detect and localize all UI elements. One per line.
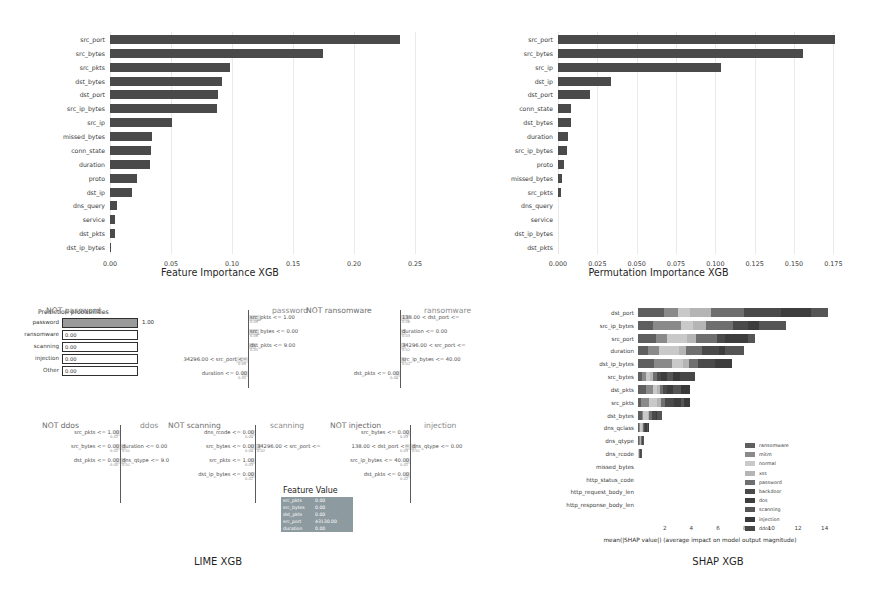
shap-class-segment <box>673 385 681 394</box>
shap-x-tick-label: 12 <box>794 525 801 531</box>
shap-feature-label: src_ip_bytes <box>600 322 634 328</box>
feature-value-table: src_pkts0.00src_bytes0.00dst_pkts0.00src… <box>281 497 353 532</box>
lime-weight-value: 0.02 <box>402 362 410 366</box>
shap-class-segment <box>684 398 690 407</box>
shap-bar-row: src_ip_bytes <box>638 321 838 331</box>
shap-class-segment <box>733 321 748 330</box>
shap-class-segment <box>717 334 725 343</box>
bar-category-label: src_ip <box>440 63 553 70</box>
shap-bar-row: src_bytes <box>638 372 838 382</box>
bar-category-label: src_pkts <box>0 63 105 70</box>
bar-category-label: dns_query <box>0 202 105 209</box>
shap-class-segment <box>759 321 786 330</box>
bar-category-label: src_bytes <box>440 49 553 56</box>
lime-positive-class-label: injection <box>424 421 456 430</box>
bar-category-label: src_bytes <box>0 49 105 56</box>
shap-feature-label: src_bytes <box>608 374 634 380</box>
gridline <box>293 32 294 254</box>
bar-category-label: missed_bytes <box>0 133 105 140</box>
shap-class-segment <box>641 449 642 458</box>
bar <box>110 215 115 224</box>
lime-weight-value: 0.03 <box>0 435 408 439</box>
shap-class-segment <box>665 398 674 407</box>
probability-bar: 0.00 <box>62 330 138 340</box>
shap-class-segment <box>686 346 701 355</box>
lime-weight-value: 0.08 <box>250 334 258 338</box>
shap-feature-label: dns_rcode <box>606 450 634 456</box>
shap-feature-label: http_request_body_len <box>570 489 634 495</box>
gridline <box>232 32 233 254</box>
lime-weight-value: 0.09 <box>250 320 258 324</box>
bar-category-label: src_ip <box>0 119 105 126</box>
shap-feature-label: duration <box>610 348 634 354</box>
shap-bar-row: duration <box>638 346 838 356</box>
lime-feature-rule: src_ip_bytes <= 40.00 <box>402 356 461 362</box>
probability-class-label: scanning <box>34 343 59 349</box>
feature-value-row: src_bytes0.00 <box>281 504 353 511</box>
gridline <box>415 32 416 254</box>
bar-category-label: dns_query <box>440 202 553 209</box>
bar-category-label: service <box>440 216 553 223</box>
shap-class-segment <box>648 423 649 432</box>
bar <box>110 118 172 127</box>
legend-label: mitm <box>759 452 772 457</box>
lime-figure-caption: LIME XGB <box>194 556 242 567</box>
shap-class-segment <box>690 308 711 317</box>
bar <box>110 201 117 210</box>
probability-row: password1.00 <box>62 318 172 329</box>
bar-category-label: conn_state <box>0 146 105 153</box>
shap-class-segment <box>725 346 744 355</box>
gridline <box>755 32 756 254</box>
bar-category-label: proto <box>440 160 553 167</box>
lime-weight-value: 0.03 <box>0 449 408 453</box>
bar <box>110 63 230 72</box>
lime-weight-value: 0.02 <box>402 348 410 352</box>
legend-label: dos <box>759 498 767 503</box>
shap-bar-row: dns_rcode <box>638 449 838 459</box>
bar <box>558 146 567 155</box>
shap-class-segment <box>679 346 686 355</box>
shap-class-segment <box>681 321 694 330</box>
bar-category-label: dst_ip <box>0 188 105 195</box>
bar <box>558 160 564 169</box>
bar <box>110 132 152 141</box>
legend-label: backdoor <box>759 489 781 494</box>
shap-feature-label: dns_qtype <box>605 438 634 444</box>
shap-class-segment <box>781 308 811 317</box>
legend-swatch <box>745 452 755 457</box>
shap-class-segment <box>706 321 733 330</box>
shap-bar-row: http_status_code <box>638 475 838 485</box>
feature-value-row: dst_pkts0.00 <box>281 511 353 518</box>
bar-category-label: dst_ip_bytes <box>440 230 553 237</box>
bar <box>110 188 132 197</box>
shap-class-segment <box>680 372 695 381</box>
bar <box>110 146 151 155</box>
bar-category-label: proto <box>0 174 105 181</box>
shap-x-tick-label: 14 <box>821 525 828 531</box>
shap-bar-row: dst_bytes <box>638 411 838 421</box>
bar-category-label: missed_bytes <box>440 174 553 181</box>
shap-class-segment <box>638 308 664 317</box>
shap-class-segment <box>664 308 678 317</box>
shap-feature-label: src_port <box>612 335 634 341</box>
bar-category-label: dst_pkts <box>0 230 105 237</box>
probability-class-label: password <box>32 319 59 325</box>
shap-class-segment <box>689 359 698 368</box>
bar <box>558 63 721 72</box>
bar <box>110 229 115 238</box>
lime-negative-class-label: NOT password <box>46 306 101 315</box>
legend-label: injection <box>759 517 779 522</box>
lime-weight-value: 0.03 <box>402 334 410 338</box>
bar <box>558 174 562 183</box>
shap-bar-row: dns_qtype <box>638 436 838 446</box>
probability-value: 0.00 <box>65 332 77 338</box>
legend-swatch <box>745 443 755 448</box>
shap-bar-row: src_pkts <box>638 398 838 408</box>
probability-bar-fill <box>63 319 137 327</box>
shap-feature-label: dns_qclass <box>604 425 634 431</box>
bar-category-label: dst_bytes <box>440 119 553 126</box>
legend-swatch <box>745 526 755 531</box>
shap-class-segment <box>811 308 828 317</box>
bar-category-label: dst_port <box>440 91 553 98</box>
legend-label: ddos <box>759 526 771 531</box>
